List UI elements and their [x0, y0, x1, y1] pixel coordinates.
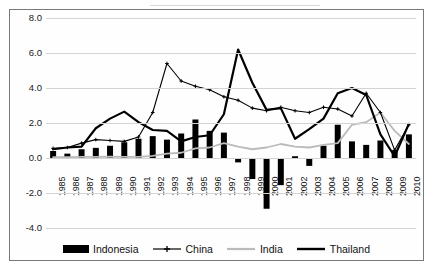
legend-swatch-bar-icon	[63, 245, 89, 253]
legend-swatch-line-icon	[152, 244, 182, 254]
legend-swatch-line-icon	[226, 244, 256, 254]
y-axis-tick-label: -2.0	[12, 188, 42, 198]
line-marker-china	[336, 107, 340, 111]
legend-swatch-line-icon	[296, 244, 326, 254]
gridline	[46, 88, 416, 89]
line-marker-china	[122, 140, 126, 144]
line-marker-china	[94, 138, 98, 142]
y-axis-tick-label: -4.0	[12, 223, 42, 233]
line-china	[53, 64, 409, 151]
gridline	[46, 158, 416, 159]
legend-label: China	[186, 243, 213, 255]
gridline	[46, 123, 416, 124]
line-india	[53, 113, 409, 158]
legend-item-indonesia[interactable]: Indonesia	[63, 243, 139, 255]
gridline	[46, 18, 416, 19]
line-marker-china	[293, 109, 297, 113]
gridline	[46, 228, 416, 229]
y-axis-tick-label: 2.0	[12, 118, 42, 128]
x-axis-tick-labels: 1985198619871988198919901991199219931994…	[46, 160, 416, 202]
line-marker-china	[222, 95, 226, 99]
legend-item-india[interactable]: India	[226, 243, 283, 255]
gridline	[46, 53, 416, 54]
chart-frame: 1985198619871988198919901991199219931994…	[9, 9, 424, 261]
y-axis-tick-label: 0.0	[12, 153, 42, 163]
y-axis-tick-label: 4.0	[12, 83, 42, 93]
scan-artifact-top	[0, 0, 435, 9]
y-axis-tick-label: 8.0	[12, 13, 42, 23]
line-marker-china	[307, 111, 311, 115]
legend-label: Thailand	[330, 243, 370, 255]
legend-label: India	[260, 243, 283, 255]
legend-item-china[interactable]: China	[152, 243, 213, 255]
line-marker-china	[108, 139, 112, 143]
line-marker-china	[322, 105, 326, 109]
y-axis-tick-label: 6.0	[12, 48, 42, 58]
legend-label: Indonesia	[93, 243, 139, 255]
chart-legend: IndonesiaChinaIndiaThailand	[10, 238, 423, 260]
legend-item-thailand[interactable]: Thailand	[296, 243, 370, 255]
gridline	[46, 193, 416, 194]
